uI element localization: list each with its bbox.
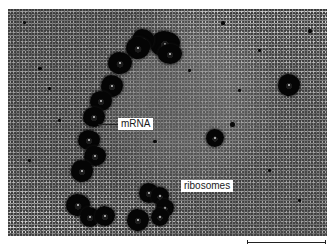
mrna-leader-line (98, 124, 118, 125)
particle (268, 169, 271, 172)
particle (188, 69, 191, 72)
particle (298, 199, 301, 202)
particle (38, 67, 42, 70)
particle (28, 159, 31, 162)
ribosome (206, 129, 224, 147)
particle (308, 29, 312, 33)
particle (238, 89, 241, 92)
ribosome (127, 209, 149, 231)
ribosome (158, 44, 182, 64)
ribosome (278, 74, 300, 96)
particle (230, 122, 235, 127)
mrna-label: mRNA (118, 118, 153, 130)
particle (153, 140, 157, 143)
scale-bar (247, 242, 326, 243)
particle (23, 21, 26, 24)
ribosomes-label: ribosomes (181, 180, 233, 192)
polysome-micrograph (8, 9, 327, 236)
ribosome (95, 206, 115, 226)
ribosome (71, 160, 93, 182)
particle (58, 119, 61, 122)
ribosome (151, 208, 169, 226)
ribosome (108, 52, 132, 74)
particle (258, 49, 261, 52)
particle (48, 87, 51, 90)
particle (221, 21, 225, 25)
